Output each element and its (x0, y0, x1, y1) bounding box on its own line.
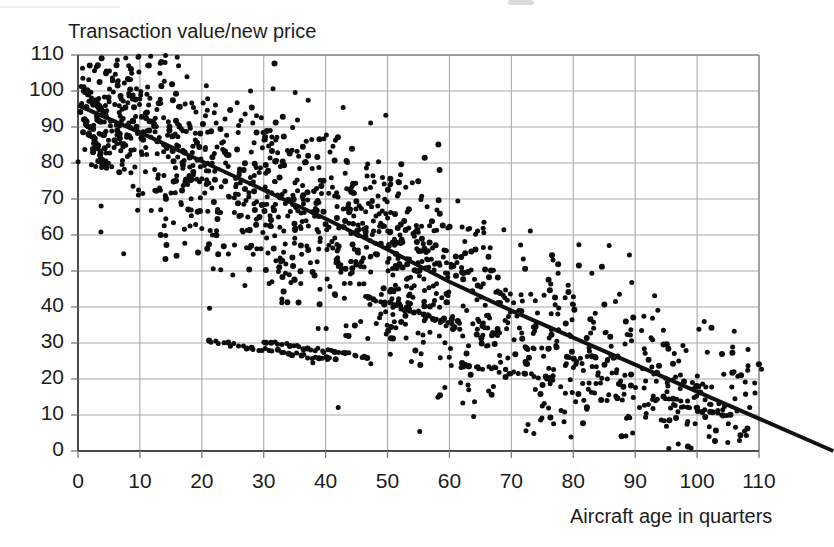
x-tick-label: 110 (724, 469, 794, 493)
x-tick-label: 70 (476, 469, 546, 493)
x-tick-label: 90 (600, 469, 670, 493)
y-tick-label: 70 (0, 185, 64, 209)
x-tick-label: 20 (167, 469, 237, 493)
y-tick-label: 110 (0, 41, 64, 65)
y-axis-title: Transaction value/new price (68, 20, 316, 43)
x-tick-label: 0 (43, 469, 113, 493)
plot-canvas (0, 0, 834, 547)
x-tick-label: 50 (353, 469, 423, 493)
y-tick-label: 90 (0, 113, 64, 137)
scatter-points (76, 53, 765, 451)
x-tick-label: 30 (229, 469, 299, 493)
y-tick-label: 20 (0, 365, 64, 389)
y-tick-label: 100 (0, 77, 64, 101)
y-tick-label: 30 (0, 329, 64, 353)
x-tick-label: 60 (414, 469, 484, 493)
x-tick-label: 40 (291, 469, 361, 493)
scatter-chart: 0102030405060708090100110 01020304050607… (0, 0, 834, 547)
y-tick-label: 0 (0, 437, 64, 461)
y-tick-label: 50 (0, 257, 64, 281)
x-axis-title: Aircraft age in quarters (570, 505, 772, 528)
y-tick-label: 40 (0, 293, 64, 317)
y-tick-label: 10 (0, 401, 64, 425)
y-tick-label: 60 (0, 221, 64, 245)
x-tick-label: 100 (662, 469, 732, 493)
x-tick-label: 10 (105, 469, 175, 493)
x-tick-label: 80 (538, 469, 608, 493)
y-tick-label: 80 (0, 149, 64, 173)
